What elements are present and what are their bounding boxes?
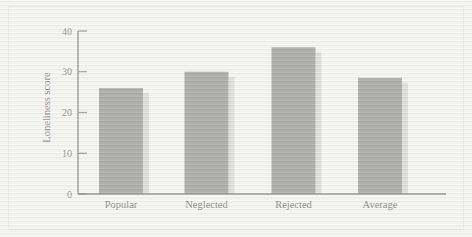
bar-neglected <box>185 72 229 194</box>
bar-popular <box>99 88 143 194</box>
y-tick-label: 0 <box>67 189 72 200</box>
chart-figure: 010203040 PopularNeglectedRejectedAverag… <box>0 0 472 237</box>
y-tick-label: 20 <box>62 107 72 118</box>
x-category-label-average: Average <box>363 199 398 210</box>
bar-shadow <box>402 83 408 194</box>
bar-rejected <box>272 47 316 194</box>
x-category-label-popular: Popular <box>105 199 138 210</box>
x-category-label-layer: PopularNeglectedRejectedAverage <box>105 199 398 210</box>
y-axis-title-layer: Loneliness score <box>41 72 52 143</box>
y-tick-label: 10 <box>62 148 72 159</box>
x-category-label-neglected: Neglected <box>185 199 228 210</box>
y-tick-label: 30 <box>62 66 72 77</box>
y-tick-layer: 010203040 <box>62 26 87 200</box>
bar-shadow <box>143 93 149 194</box>
y-tick-label: 40 <box>62 26 72 37</box>
bars-layer <box>99 47 408 194</box>
x-category-label-rejected: Rejected <box>275 199 312 210</box>
y-axis-title: Loneliness score <box>41 72 52 143</box>
bar-shadow <box>229 77 235 194</box>
bar-shadow <box>316 52 322 194</box>
bar-average <box>358 78 402 194</box>
bar-chart-plot: 010203040 PopularNeglectedRejectedAverag… <box>0 0 472 237</box>
